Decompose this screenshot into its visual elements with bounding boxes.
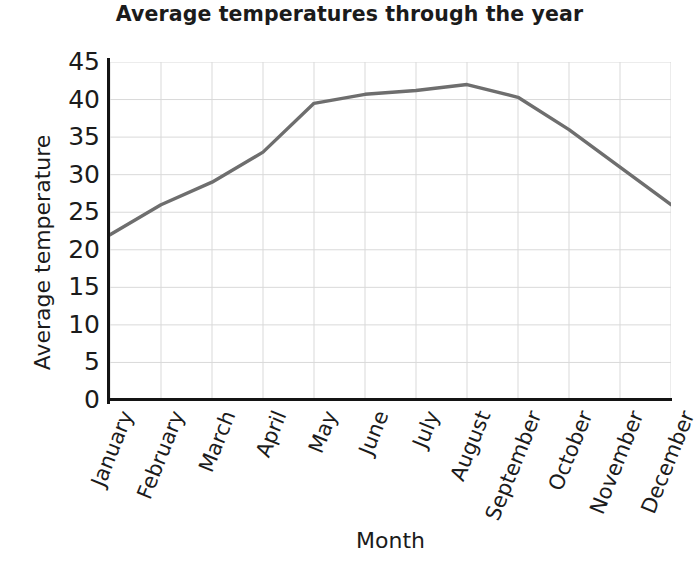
- x-axis-tick-label: March: [196, 408, 239, 475]
- x-axis-tick-label: October: [546, 408, 597, 494]
- x-axis-tick-label: February: [134, 408, 188, 502]
- chart-figure: Average temperatures through the year Av…: [0, 0, 699, 571]
- x-axis-tick-label: September: [483, 408, 546, 523]
- x-axis-tick-labels: JanuaryFebruaryMarchAprilMayJuneJulyAugu…: [0, 0, 699, 571]
- x-axis-tick-label: August: [447, 408, 494, 484]
- x-axis-tick-label: January: [88, 408, 137, 490]
- x-axis-tick-label: April: [253, 408, 290, 460]
- x-axis-tick-label: December: [638, 408, 698, 517]
- x-axis-tick-label: June: [356, 408, 393, 458]
- x-axis-tick-label: May: [306, 408, 342, 456]
- x-axis-tick-label: July: [410, 408, 444, 451]
